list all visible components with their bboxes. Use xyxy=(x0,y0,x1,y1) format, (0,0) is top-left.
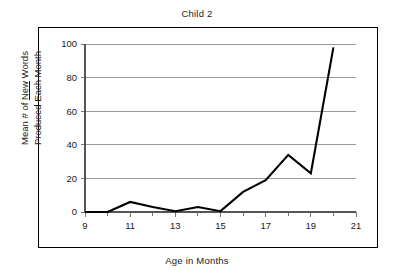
y-tick-label-60: 60 xyxy=(66,106,77,117)
x-tick-label-15: 15 xyxy=(215,220,226,231)
y-tick-labels-group: 020406080100 xyxy=(61,38,77,217)
y-tick-label-20: 20 xyxy=(66,173,77,184)
y-tick-label-80: 80 xyxy=(66,72,77,83)
y-tick-label-0: 0 xyxy=(72,206,77,217)
x-tick-label-9: 9 xyxy=(82,220,87,231)
plot-canvas: 020406080100 9111315171921 xyxy=(0,0,394,277)
data-series-line xyxy=(85,47,333,212)
y-tick-label-40: 40 xyxy=(66,139,77,150)
x-tick-label-11: 11 xyxy=(125,220,135,231)
chart-figure: Child 2 Mean # of New Words Produced Eac… xyxy=(0,0,394,277)
x-tick-marks-group xyxy=(85,212,356,217)
x-tick-label-19: 19 xyxy=(306,220,317,231)
y-tick-label-100: 100 xyxy=(61,38,77,49)
x-tick-label-17: 17 xyxy=(260,220,271,231)
y-tick-marks-group xyxy=(81,44,85,212)
x-tick-labels-group: 9111315171921 xyxy=(82,220,361,231)
x-tick-label-13: 13 xyxy=(170,220,181,231)
x-tick-label-21: 21 xyxy=(351,220,362,231)
gridlines-group xyxy=(85,44,356,178)
